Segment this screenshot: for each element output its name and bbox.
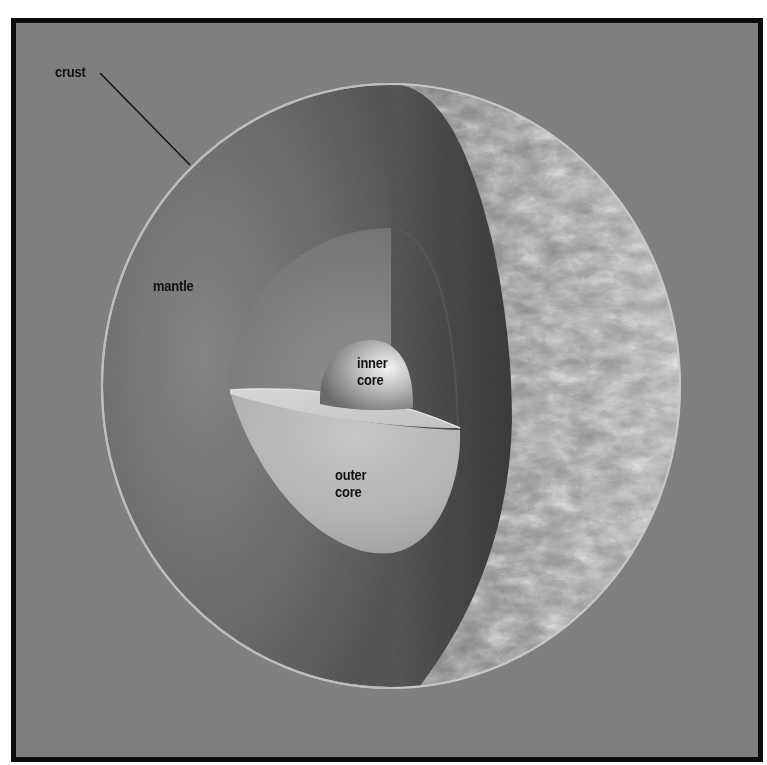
label-outer-core: outer core: [335, 466, 366, 500]
crust-leader-line: [100, 73, 190, 165]
label-mantle: mantle: [153, 277, 194, 294]
label-crust: crust: [55, 63, 86, 80]
label-inner-core: inner core: [357, 354, 388, 388]
